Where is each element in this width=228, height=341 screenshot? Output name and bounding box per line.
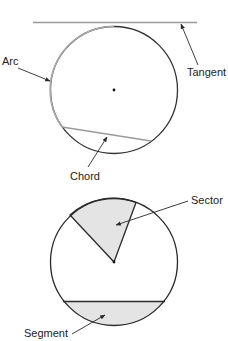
- bottom-circle-group: [51, 198, 189, 334]
- top-center-dot: [113, 89, 116, 92]
- chord-label: Chord: [70, 171, 100, 182]
- arc-highlight: [50, 26, 114, 127]
- tangent-label: Tangent: [187, 67, 226, 78]
- chord-pointer-arrow: [88, 137, 107, 167]
- segment-shape: [64, 302, 164, 326]
- circle-parts-diagram: [0, 0, 228, 341]
- tangent-pointer-arrow: [181, 24, 198, 65]
- top-circle-group: [18, 23, 198, 168]
- bottom-center-dot: [113, 261, 116, 264]
- sector-label: Sector: [191, 195, 223, 206]
- segment-label: Segment: [24, 328, 68, 339]
- arc-label: Arc: [2, 56, 19, 67]
- chord-line: [62, 127, 151, 141]
- arc-pointer-arrow: [18, 68, 50, 81]
